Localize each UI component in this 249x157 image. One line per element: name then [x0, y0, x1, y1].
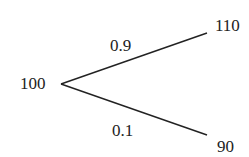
- root-node-value: 100: [20, 75, 46, 92]
- probability-tree-diagram: 100 0.9 110 0.1 90: [0, 0, 249, 157]
- lower-branch-line: [61, 84, 207, 135]
- upper-outcome-value: 110: [215, 17, 240, 34]
- lower-branch-probability: 0.1: [112, 122, 133, 139]
- lower-outcome-value: 90: [217, 138, 234, 155]
- upper-branch-line: [61, 33, 207, 84]
- upper-branch-probability: 0.9: [110, 37, 131, 54]
